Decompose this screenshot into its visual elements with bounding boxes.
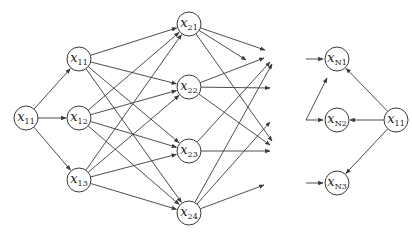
edge-arrow	[346, 68, 388, 111]
edge-arrow	[88, 32, 179, 110]
node-label-l2_4: x24	[176, 203, 202, 221]
node-label-l0_1: x11	[13, 108, 39, 126]
node-subscript: N2	[335, 119, 347, 128]
edge-arrow	[86, 35, 182, 171]
node-variable: x	[327, 174, 334, 189]
edge-arrow	[346, 129, 388, 174]
edge-arrow	[34, 127, 71, 170]
edge-arrow	[86, 69, 181, 203]
node-label-r_1: x11	[383, 110, 409, 128]
dangling-edge-arrow	[200, 28, 265, 50]
node-subscript: 12	[78, 117, 88, 126]
node-label-l2_1: x21	[176, 14, 202, 32]
node-variable: x	[387, 111, 394, 126]
node-subscript: 21	[188, 23, 198, 32]
node-label-l1_3: x13	[66, 170, 92, 188]
node-variable: x	[180, 204, 187, 219]
node-label-l2_2: x22	[176, 77, 202, 95]
dangling-edge-arrow	[197, 122, 270, 204]
node-variable: x	[70, 171, 77, 186]
node-label-ln_3: xN3	[324, 173, 350, 191]
edge-arrow	[91, 154, 177, 177]
node-subscript: 11	[25, 117, 35, 126]
edges-layer	[0, 0, 412, 239]
node-label-l2_3: x23	[176, 141, 202, 159]
node-variable: x	[180, 15, 187, 30]
edge-arrow	[91, 62, 177, 84]
edge-arrow	[88, 67, 179, 143]
node-label-ln_2: xN2	[324, 110, 350, 128]
node-subscript: 11	[78, 58, 88, 67]
edge-arrow	[34, 69, 70, 109]
node-variable: x	[70, 109, 77, 124]
node-subscript: 13	[78, 179, 88, 188]
node-subscript: N3	[335, 182, 347, 191]
node-label-l1_2: x12	[66, 108, 92, 126]
node-variable: x	[180, 78, 187, 93]
node-variable: x	[180, 142, 187, 157]
edge-arrow	[90, 183, 176, 209]
node-subscript: 11	[395, 119, 405, 128]
node-subscript: 22	[188, 86, 198, 95]
node-variable: x	[17, 109, 24, 124]
node-label-l1_1: x11	[66, 49, 92, 67]
dangling-edge-arrow	[199, 30, 246, 60]
edge-arrow	[88, 95, 179, 172]
edge-arrow	[90, 28, 176, 55]
node-variable: x	[70, 50, 77, 65]
node-subscript: N1	[335, 58, 347, 67]
node-subscript: 23	[188, 150, 198, 159]
node-label-ln_1: xN1	[324, 49, 350, 67]
dangling-edge-arrow	[200, 185, 264, 209]
node-subscript: 24	[188, 212, 198, 221]
network-diagram: x11x11x12x13x21x22x23x24xN1xN2xN3x11	[0, 0, 412, 239]
node-variable: x	[327, 111, 334, 126]
node-variable: x	[327, 50, 334, 65]
dangling-edge-arrow	[201, 87, 270, 88]
dangling-edge-arrow	[197, 62, 270, 142]
